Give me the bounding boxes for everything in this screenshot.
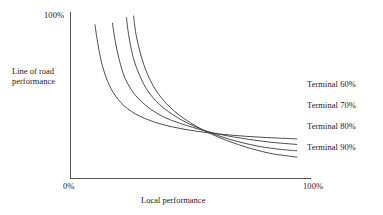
- series-label-terminal-60: Terminal 60%: [307, 79, 356, 89]
- y-axis-tick-100: 100%: [44, 10, 64, 20]
- series-label-terminal-80: Terminal 80%: [307, 121, 356, 131]
- y-axis-title-line1: Line of road: [12, 66, 54, 76]
- series-label-terminal-70: Terminal 70%: [307, 100, 356, 110]
- y-axis-title: Line of roadperformance: [12, 66, 70, 86]
- curve-terminal-70: [112, 23, 296, 144]
- curve-terminal-60: [95, 25, 297, 139]
- chart-figure: 100% 0% 100% Line of roadperformance Loc…: [0, 0, 383, 215]
- axis-lines: [70, 12, 311, 179]
- x-axis-title: Local performance: [141, 195, 205, 205]
- x-axis-tick-0: 0%: [63, 181, 75, 191]
- series-label-terminal-90: Terminal 90%: [307, 142, 356, 152]
- x-axis-tick-100: 100%: [303, 181, 323, 191]
- data-curves: [95, 16, 297, 157]
- y-axis-title-line2: performance: [12, 76, 55, 86]
- curve-terminal-90: [134, 16, 297, 157]
